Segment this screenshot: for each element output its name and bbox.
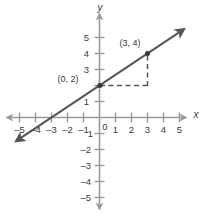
y-tick-label-neg3: –3 xyxy=(80,160,91,171)
y-tick-label-3: 3 xyxy=(84,64,89,75)
x-axis-label: x xyxy=(193,109,200,120)
x-tick-label-3: 3 xyxy=(145,124,150,135)
x-tick-label-0: 0 xyxy=(102,121,107,132)
coordinate-plane-figure: (0, 2) (3, 4) –5 –4 –3 –2 –1 0 1 2 3 4 5… xyxy=(0,0,208,216)
graph-canvas: (0, 2) (3, 4) –5 –4 –3 –2 –1 0 1 2 3 4 5… xyxy=(0,0,208,216)
x-tick-label-2: 2 xyxy=(129,124,134,135)
x-tick-label-1: 1 xyxy=(113,124,118,135)
y-tick-label-5: 5 xyxy=(84,32,89,43)
point-label-0-2: (0, 2) xyxy=(57,74,78,84)
point-marker-0-2 xyxy=(97,83,102,88)
x-tick-label-neg5: –5 xyxy=(14,124,25,135)
y-tick-label-neg4: –4 xyxy=(80,176,91,187)
y-tick-label-neg1: 1 xyxy=(88,128,93,139)
y-tick-label-4: 4 xyxy=(84,48,89,59)
y-tick-label-neg2: –2 xyxy=(80,144,91,155)
point-label-3-4: (3, 4) xyxy=(119,38,140,48)
point-marker-3-4 xyxy=(145,51,150,56)
x-tick-label-neg3: –3 xyxy=(46,124,57,135)
axes-group xyxy=(7,14,186,209)
x-tick-label-neg4: –4 xyxy=(30,124,41,135)
x-tick-label-neg2: –2 xyxy=(62,124,73,135)
x-tick-label-5: 5 xyxy=(177,124,182,135)
y-axis-label: y xyxy=(97,2,104,13)
x-tick-label-4: 4 xyxy=(161,124,166,135)
y-tick-label-1: 1 xyxy=(84,96,89,107)
y-tick-label-neg5: –5 xyxy=(80,192,91,203)
